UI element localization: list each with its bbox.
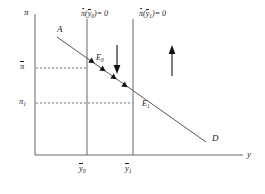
- iso-suffix-0: = 0: [97, 9, 108, 18]
- pi-dot-glyph-1: π: [139, 10, 143, 18]
- y-bar-one-sub: 1: [129, 168, 132, 174]
- phase-diagram-figure: π y π π1 y0 y1 π(y0)= 0 π(y1)= 0 A D E0 …: [0, 0, 265, 194]
- e0-sub: 0: [101, 57, 104, 63]
- iso-label-pi-dot-y1: π(y1)= 0: [139, 10, 166, 19]
- pi-dot-glyph-0: π: [81, 10, 85, 18]
- x-tick-y-bar-zero: y0: [79, 164, 86, 174]
- pi-bar-glyph: π: [20, 62, 24, 71]
- iso-arg-bar-1: y: [146, 10, 150, 18]
- x-axis-label: y: [247, 150, 251, 159]
- diagram-canvas: [0, 0, 265, 194]
- iso-arg-bar-0: y: [88, 10, 92, 18]
- pi-one-sub: 1: [23, 101, 26, 107]
- x-tick-y-bar-one: y1: [125, 164, 132, 174]
- down-arrow-middle-region: [114, 45, 121, 74]
- up-arrow-right-region: [169, 45, 176, 76]
- arrowhead-3: [110, 74, 118, 82]
- curve-end-label-d: D: [212, 134, 219, 143]
- iso-label-pi-dot-y0: π(y0)= 0: [81, 10, 108, 19]
- equilibrium-label-e1: E1: [142, 100, 150, 109]
- iso-suffix-1: = 0: [155, 9, 166, 18]
- y-bar-zero-glyph: y: [79, 164, 83, 173]
- equilibrium-label-e0: E0: [96, 54, 104, 63]
- e1-sub: 1: [147, 103, 150, 109]
- arrowhead-2: [99, 66, 107, 74]
- y-axis-label: π: [24, 8, 29, 17]
- curve-start-label-a: A: [57, 25, 63, 34]
- y-tick-pi-bar: π: [20, 62, 24, 71]
- y-tick-pi-one: π1: [19, 97, 26, 107]
- y-bar-one-glyph: y: [125, 164, 129, 173]
- ad-line: [57, 37, 206, 142]
- y-bar-zero-sub: 0: [83, 168, 86, 174]
